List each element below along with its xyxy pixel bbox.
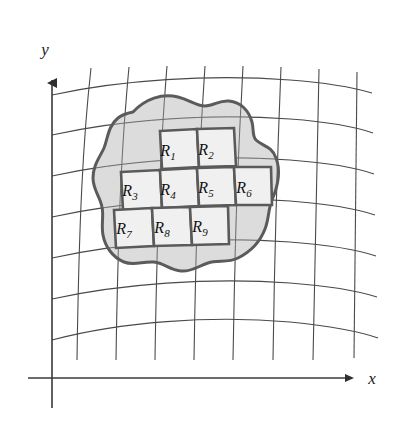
grid-v-line <box>313 69 319 360</box>
grid-v-line <box>354 72 357 358</box>
grid-h-line <box>52 78 372 95</box>
figure-container: R1 R2 R3 R4 R5 R6 R7 R8 <box>0 0 406 428</box>
grid-v-line <box>77 68 91 360</box>
y-axis-label: y <box>39 40 49 59</box>
x-axis-label: x <box>367 369 376 388</box>
grid-h-line <box>52 319 378 340</box>
grid-h-line <box>52 281 377 299</box>
grid-v-line <box>273 67 281 360</box>
diagram-svg: R1 R2 R3 R4 R5 R6 R7 R8 <box>0 0 406 428</box>
